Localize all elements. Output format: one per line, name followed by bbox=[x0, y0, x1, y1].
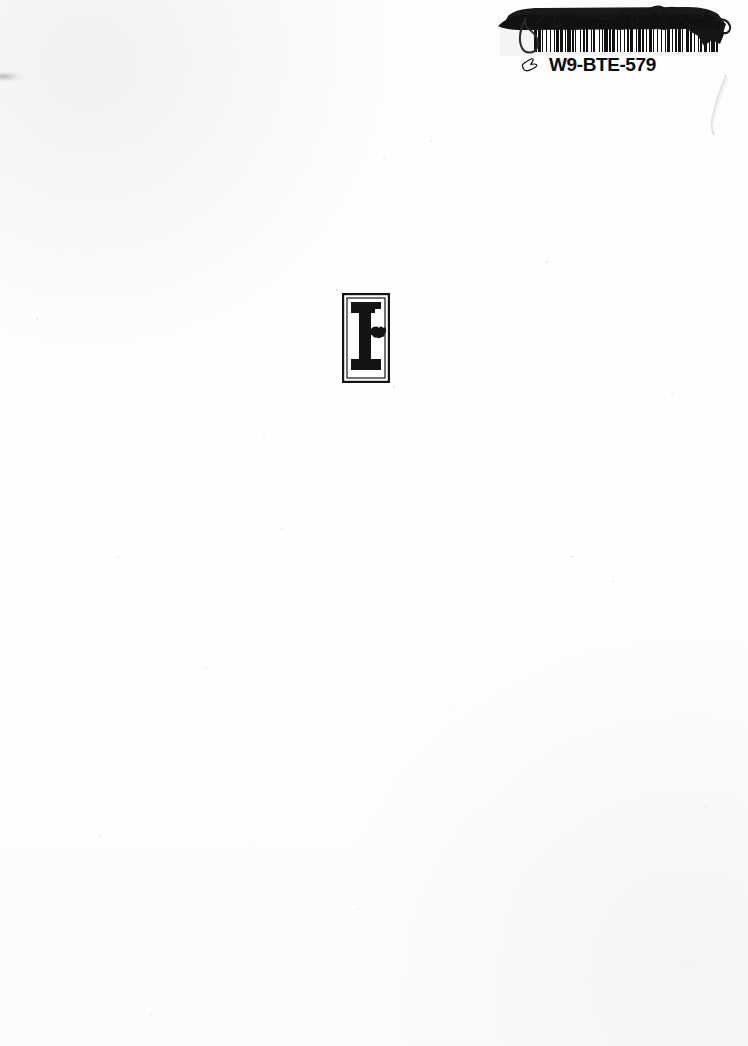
barcode-sticker: W9-BTE-579 bbox=[492, 2, 732, 88]
paper-texture bbox=[0, 0, 748, 1046]
scan-speckles bbox=[0, 0, 748, 1046]
scan-dust bbox=[336, 289, 338, 291]
scan-dust bbox=[393, 386, 395, 388]
pointing-hand-icon bbox=[520, 55, 540, 75]
barcode-number: W9-BTE-579 bbox=[549, 54, 656, 76]
scan-smudge-artifact bbox=[0, 72, 24, 81]
barcode-code-row: W9-BTE-579 bbox=[520, 54, 656, 76]
scanned-page: W9-BTE-579 bbox=[0, 0, 748, 1046]
publisher-colophon bbox=[342, 293, 390, 383]
barcode-icon bbox=[534, 26, 720, 52]
barcode-bar bbox=[718, 26, 719, 52]
